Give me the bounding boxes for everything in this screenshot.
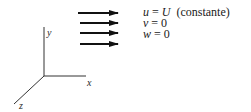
equation-lhs: w [143, 27, 151, 41]
x-axis-label: x [87, 78, 91, 88]
z-axis-label: z [19, 101, 23, 111]
equation-w: w=0 [143, 29, 230, 40]
y-axis-label: y [47, 28, 51, 38]
velocity-equations: u=U(constante) v=0 w=0 [143, 7, 230, 39]
flow-arrows [78, 13, 118, 44]
equation-rhs: 0 [164, 27, 170, 41]
equals-sign: = [151, 27, 164, 41]
coordinate-axes [14, 27, 86, 104]
equation-note: (constante) [170, 5, 229, 19]
